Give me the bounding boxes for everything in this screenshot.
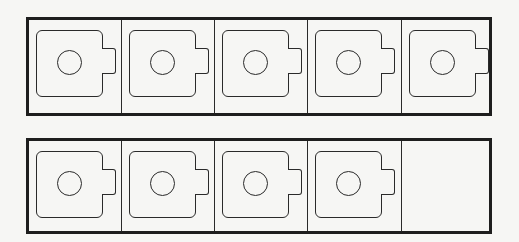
cell-1 xyxy=(29,20,122,113)
mug-icon xyxy=(315,151,382,218)
mug-circle-icon xyxy=(336,50,361,75)
cell-9 xyxy=(308,141,402,231)
mug-circle-icon xyxy=(57,171,82,196)
cell-3 xyxy=(215,20,308,113)
mug-handle-icon xyxy=(195,169,209,195)
mug-handle-icon xyxy=(381,169,395,195)
mug-icon xyxy=(129,30,196,97)
ten-frame-row-1 xyxy=(26,17,492,116)
mug-circle-icon xyxy=(243,50,268,75)
mug-circle-icon xyxy=(430,50,455,75)
cell-7 xyxy=(122,141,215,231)
mug-handle-icon xyxy=(102,48,116,74)
mug-handle-icon xyxy=(195,48,209,74)
mug-handle-icon xyxy=(288,48,302,74)
mug-icon xyxy=(222,151,289,218)
mug-icon xyxy=(36,30,103,97)
mug-circle-icon xyxy=(336,171,361,196)
mug-circle-icon xyxy=(150,50,175,75)
mug-icon xyxy=(222,30,289,97)
mug-handle-icon xyxy=(102,169,116,195)
edge-scan-mark xyxy=(0,190,4,236)
mug-circle-icon xyxy=(243,171,268,196)
cell-5 xyxy=(402,20,489,113)
mug-icon xyxy=(315,30,382,97)
mug-icon xyxy=(36,151,103,218)
mug-circle-icon xyxy=(57,50,82,75)
mug-circle-icon xyxy=(150,171,175,196)
cell-4 xyxy=(308,20,402,113)
cell-2 xyxy=(122,20,215,113)
cell-6 xyxy=(29,141,122,231)
mug-icon xyxy=(409,30,476,97)
ten-frame-row-2 xyxy=(26,138,492,234)
mug-icon xyxy=(129,151,196,218)
mug-handle-icon xyxy=(475,48,489,74)
cell-10-empty xyxy=(402,141,489,231)
cell-8 xyxy=(215,141,308,231)
mug-handle-icon xyxy=(381,48,395,74)
mug-handle-icon xyxy=(288,169,302,195)
